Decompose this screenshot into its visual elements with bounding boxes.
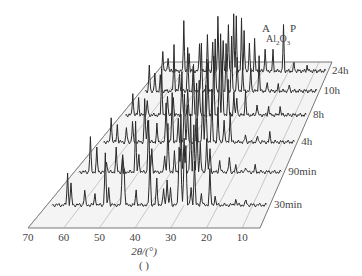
figure-caption: ( ) — [139, 259, 149, 271]
annotation-al-text: Al — [266, 33, 276, 44]
series-label-10h: 10h — [323, 84, 340, 96]
annotation-al2o3: Al2O3 — [266, 33, 290, 47]
x-axis-label: 2θ/(°) — [131, 245, 157, 257]
series-label-24h: 24h — [332, 64, 349, 76]
series-label-90min: 90min — [288, 165, 316, 177]
x-tick-10: 10 — [237, 231, 248, 243]
x-tick-50: 50 — [94, 231, 105, 243]
annotation-p: P — [290, 22, 296, 34]
series-label-8h: 8h — [313, 108, 324, 120]
x-tick-60: 60 — [58, 231, 69, 243]
annotation-sub3: 3 — [287, 39, 291, 47]
x-tick-40: 40 — [130, 231, 141, 243]
x-tick-30: 30 — [165, 231, 176, 243]
annotation-o-text: O — [280, 33, 287, 44]
x-tick-70: 70 — [23, 231, 34, 243]
x-tick-20: 20 — [201, 231, 212, 243]
series-label-30min: 30min — [274, 198, 302, 210]
series-label-4h: 4h — [301, 135, 312, 147]
